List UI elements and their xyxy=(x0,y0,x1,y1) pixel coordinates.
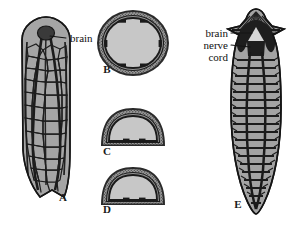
panel-d-nerve-cord-left xyxy=(123,198,130,201)
panel-letter-a: A xyxy=(59,191,67,203)
callout-brain-e-label: brain xyxy=(205,27,228,39)
panel-letter-b: B xyxy=(103,63,111,75)
panel-c-nerve-cord-left xyxy=(123,139,130,142)
callout-brain-a-label: brain xyxy=(70,32,93,44)
panel-a-brain xyxy=(38,26,55,40)
panel-letter-e: E xyxy=(234,198,241,210)
callout-nerve-label: nerve xyxy=(204,39,229,51)
figure-canvas: B C D xyxy=(0,0,288,232)
panel-b-gastrovascular-lumen xyxy=(105,18,161,68)
anatomical-diagram-svg: B C D xyxy=(0,0,288,232)
panel-c-nerve-cord-right xyxy=(139,139,146,142)
panel-letter-c: C xyxy=(103,145,111,157)
panel-b-cross-section: B xyxy=(97,10,169,76)
callout-cord-label: cord xyxy=(208,51,228,63)
panel-letter-d: D xyxy=(103,203,111,215)
panel-d-nerve-cord-right xyxy=(139,198,146,201)
panel-a-nerve-net xyxy=(22,17,70,197)
